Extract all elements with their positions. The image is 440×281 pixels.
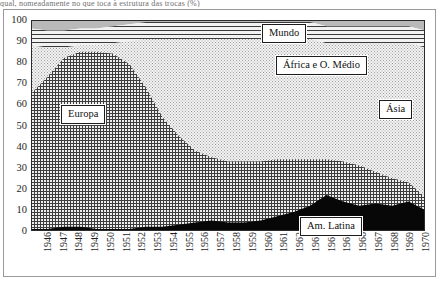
x-axis-tick: 1959 [248,232,258,252]
figure-root: qual, nomeadamente no que toca à estrutu… [0,0,440,281]
x-axis-tick: 1950 [106,232,116,252]
x-axis-tick: 1954 [169,232,179,252]
y-axis-tick: 80 [17,57,28,68]
y-axis-tick: 10 [17,205,28,216]
y-axis-tick: 30 [17,162,28,173]
x-axis: 1946194719481949195019511952195319541955… [31,232,425,278]
x-axis-tick: 1949 [90,232,100,252]
caption-sliver: qual, nomeadamente no que toca à estrutu… [0,0,440,7]
y-axis-tick: 0 [22,226,27,237]
plot-area [31,20,425,231]
x-axis-tick: 1967 [374,232,384,252]
y-axis-tick: 100 [11,15,27,26]
x-axis-tick: 1956 [200,232,210,252]
y-axis-tick: 20 [17,184,28,195]
x-axis-tick: 1947 [59,232,69,252]
x-axis-tick: 1957 [216,232,226,252]
x-axis-tick: 1960 [264,232,274,252]
y-axis-tick: 50 [17,120,28,131]
x-axis-tick: 1968 [390,232,400,252]
x-axis-tick: 1961 [279,232,289,252]
callout-mundo: Mundo [262,24,306,43]
y-axis: 1009080706050403020100 [0,20,27,231]
x-axis-tick: 1958 [232,232,242,252]
y-axis-tick: 40 [17,141,28,152]
y-axis-tick: 90 [17,36,28,47]
x-axis-tick: 1946 [43,232,53,252]
callout-asia: Ásia [379,100,412,119]
y-axis-tick: 60 [17,99,28,110]
callout-am-latina: Am. Latina [300,217,362,236]
x-axis-tick: 1951 [122,232,132,252]
x-axis-tick: 1955 [185,232,195,252]
y-axis-tick: 70 [17,78,28,89]
x-axis-tick: 1952 [137,232,147,252]
callout-africa-o-medio: África e O. Médio [276,56,367,75]
x-axis-tick: 1953 [153,232,163,252]
x-axis-tick: 1948 [74,232,84,252]
x-axis-tick: 1969 [405,232,415,252]
x-axis-tick: 1970 [421,232,431,252]
callout-europa: Europa [61,105,105,124]
